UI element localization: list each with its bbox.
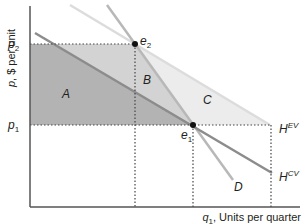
x-axis-label: q1, Units per quarter: [202, 211, 301, 224]
label-demand: D: [234, 180, 243, 194]
point-e1: [190, 122, 196, 128]
label-e2: e2: [140, 34, 152, 50]
point-e2: [132, 41, 138, 47]
label-region-b: B: [143, 73, 151, 87]
label-e1: e1: [181, 128, 193, 144]
label-region-c: C: [203, 93, 212, 107]
y-axis-label: p, $ per unit: [5, 3, 17, 113]
tick-p1: p1: [7, 118, 20, 134]
label-region-a: A: [61, 87, 70, 101]
label-hcv: HCV: [279, 169, 299, 184]
label-hev: HEV: [279, 121, 299, 136]
welfare-diagram: p2 p1 e2 e1 A B C D HEV HCV: [0, 0, 305, 224]
